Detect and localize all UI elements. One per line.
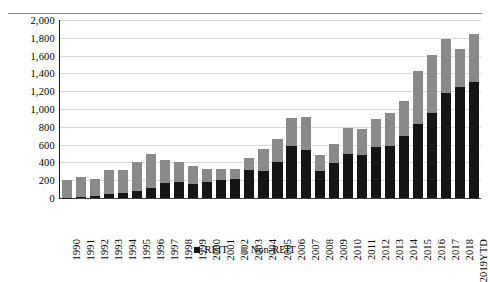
bar-segment-non-reit[interactable] [427, 55, 437, 113]
bar-segment-non-reit[interactable] [132, 162, 142, 191]
bar-segment-non-reit[interactable] [90, 179, 100, 196]
bar-segment-non-reit[interactable] [76, 177, 86, 197]
bar-segment-reit[interactable] [160, 183, 170, 198]
bar-group[interactable] [371, 20, 381, 198]
bar-group[interactable] [301, 20, 311, 198]
bar-segment-reit[interactable] [343, 154, 353, 199]
y-tick-label: 2,000 [3, 15, 55, 26]
bar-segment-reit[interactable] [76, 197, 86, 198]
bar-segment-reit[interactable] [399, 136, 409, 198]
bar-segment-reit[interactable] [258, 171, 268, 198]
bar-segment-non-reit[interactable] [104, 170, 114, 194]
bar-group[interactable] [160, 20, 170, 198]
chart-legend: REITNon-REIT [0, 244, 490, 255]
bar-segment-non-reit[interactable] [286, 118, 296, 146]
bar-segment-reit[interactable] [244, 170, 254, 198]
bar-segment-reit[interactable] [286, 146, 296, 199]
bar-segment-non-reit[interactable] [118, 170, 128, 193]
bar-segment-non-reit[interactable] [441, 39, 451, 93]
bar-segment-non-reit[interactable] [272, 139, 282, 161]
bar-group[interactable] [258, 20, 268, 198]
bar-segment-reit[interactable] [301, 150, 311, 198]
bar-segment-non-reit[interactable] [258, 149, 268, 171]
bar-segment-non-reit[interactable] [62, 180, 72, 198]
bar-segment-non-reit[interactable] [413, 71, 423, 124]
bar-group[interactable] [174, 20, 184, 198]
bar-segment-reit[interactable] [188, 184, 198, 198]
y-tick-label: 600 [3, 139, 55, 150]
bar-group[interactable] [188, 20, 198, 198]
bar-group[interactable] [244, 20, 254, 198]
bar-segment-reit[interactable] [385, 146, 395, 199]
bar-segment-non-reit[interactable] [230, 169, 240, 180]
bar-segment-non-reit[interactable] [202, 169, 212, 182]
y-tick-label: 1,200 [3, 86, 55, 97]
bar-segment-non-reit[interactable] [371, 119, 381, 147]
bar-segment-reit[interactable] [132, 191, 142, 198]
bar-group[interactable] [343, 20, 353, 198]
bar-group[interactable] [272, 20, 282, 198]
bar-segment-non-reit[interactable] [174, 162, 184, 182]
bar-segment-non-reit[interactable] [301, 117, 311, 150]
bar-segment-reit[interactable] [357, 155, 367, 198]
bar-group[interactable] [118, 20, 128, 198]
bar-segment-reit[interactable] [427, 113, 437, 198]
bar-segment-non-reit[interactable] [216, 169, 226, 181]
bar-group[interactable] [104, 20, 114, 198]
bar-group[interactable] [132, 20, 142, 198]
bar-segment-non-reit[interactable] [385, 113, 395, 146]
legend-item[interactable]: Non-REIT [241, 244, 296, 255]
bar-group[interactable] [469, 20, 479, 198]
bar-group[interactable] [455, 20, 465, 198]
bar-group[interactable] [90, 20, 100, 198]
bar-group[interactable] [76, 20, 86, 198]
bar-group[interactable] [441, 20, 451, 198]
bar-segment-reit[interactable] [329, 163, 339, 198]
bar-segment-reit[interactable] [371, 147, 381, 198]
bar-segment-reit[interactable] [272, 162, 282, 198]
bar-segment-reit[interactable] [104, 194, 114, 198]
bar-group[interactable] [357, 20, 367, 198]
bar-segment-non-reit[interactable] [244, 158, 254, 170]
bar-segment-non-reit[interactable] [329, 144, 339, 163]
bar-group[interactable] [329, 20, 339, 198]
bar-group[interactable] [202, 20, 212, 198]
bar-group[interactable] [62, 20, 72, 198]
bar-group[interactable] [146, 20, 156, 198]
bar-segment-reit[interactable] [118, 193, 128, 198]
legend-item[interactable]: REIT [194, 244, 227, 255]
bar-group[interactable] [286, 20, 296, 198]
legend-swatch-icon [194, 247, 200, 253]
bar-segment-reit[interactable] [441, 93, 451, 198]
bar-segment-non-reit[interactable] [188, 166, 198, 184]
bar-group[interactable] [230, 20, 240, 198]
bar-segment-reit[interactable] [230, 179, 240, 198]
bar-segment-non-reit[interactable] [315, 155, 325, 171]
bar-segment-non-reit[interactable] [160, 160, 170, 183]
y-axis-tick-labels: 02004006008001,0001,2001,4001,6001,8002,… [0, 20, 55, 198]
bar-segment-non-reit[interactable] [455, 49, 465, 87]
bar-segment-reit[interactable] [174, 182, 184, 198]
bar-segment-reit[interactable] [216, 180, 226, 198]
bar-group[interactable] [385, 20, 395, 198]
bar-group[interactable] [315, 20, 325, 198]
bar-group[interactable] [399, 20, 409, 198]
bar-group[interactable] [216, 20, 226, 198]
bar-segment-non-reit[interactable] [399, 101, 409, 137]
bar-segment-reit[interactable] [315, 171, 325, 198]
bar-segment-reit[interactable] [413, 124, 423, 198]
bar-segment-non-reit[interactable] [469, 34, 479, 82]
bar-group[interactable] [427, 20, 437, 198]
bar-segment-non-reit[interactable] [343, 128, 353, 154]
bar-group[interactable] [413, 20, 423, 198]
bar-segment-non-reit[interactable] [146, 154, 156, 188]
bar-segment-non-reit[interactable] [357, 129, 367, 155]
bar-segment-reit[interactable] [202, 182, 212, 198]
bar-segment-reit[interactable] [90, 196, 100, 198]
bar-segment-reit[interactable] [455, 87, 465, 198]
bar-segment-reit[interactable] [469, 82, 479, 198]
top-divider-rule [8, 13, 482, 14]
legend-swatch-icon [241, 247, 247, 253]
bar-segment-reit[interactable] [146, 188, 156, 198]
y-tick-label: 400 [3, 157, 55, 168]
